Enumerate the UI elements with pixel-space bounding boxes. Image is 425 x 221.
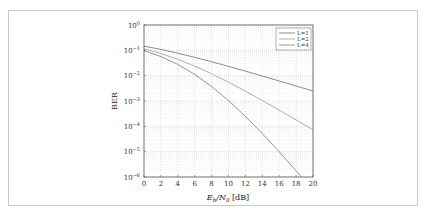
x-tick-label: 10 <box>224 180 233 188</box>
y-axis-ticks: 10010−110−210−310−410−510−6 <box>124 20 146 182</box>
y-tick-label: 10−5 <box>124 146 140 156</box>
y-axis-label: BER <box>110 91 119 110</box>
ber-chart: 02468101214161820 10010−110−210−310−410−… <box>0 0 425 221</box>
x-tick-label: 20 <box>309 180 318 188</box>
x-tick-label: 12 <box>241 180 250 188</box>
y-tick-label: 100 <box>128 20 140 30</box>
x-tick-label: 6 <box>192 180 197 188</box>
x-tick-label: 18 <box>292 180 301 188</box>
y-tick-label: 10−4 <box>124 121 140 131</box>
x-tick-label: 16 <box>275 180 284 188</box>
y-tick-label: 10−2 <box>124 70 140 80</box>
y-tick-label: 10−1 <box>124 45 140 55</box>
y-tick-label: 10−6 <box>124 172 140 182</box>
legend-label: L=4 <box>297 42 309 48</box>
x-tick-label: 4 <box>176 180 181 188</box>
x-tick-label: 8 <box>209 180 213 188</box>
x-axis-label: Eb/N0 [dB] <box>206 193 249 203</box>
legend: L=1L=2L=4 <box>276 28 311 50</box>
x-tick-label: 0 <box>142 180 146 188</box>
x-tick-label: 14 <box>258 180 267 188</box>
y-tick-label: 10−3 <box>124 96 140 106</box>
x-tick-label: 2 <box>159 180 163 188</box>
